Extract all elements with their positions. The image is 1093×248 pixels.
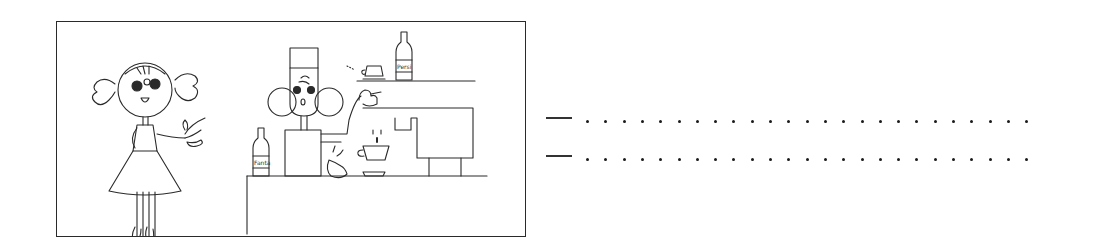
dot: [952, 158, 955, 161]
dot: [787, 158, 790, 161]
dot: [879, 120, 882, 123]
dot: [824, 158, 827, 161]
answer-line-2-dots[interactable]: [586, 158, 1036, 164]
girl-figure: [92, 63, 205, 236]
dot: [952, 120, 955, 123]
dot: [678, 158, 681, 161]
dot: [915, 120, 918, 123]
dot: [732, 158, 735, 161]
dot: [714, 120, 717, 123]
dot: [641, 158, 644, 161]
dot: [732, 120, 735, 123]
dot: [1025, 158, 1028, 161]
dot: [1007, 158, 1010, 161]
cafe-scene-illustration: Persi: [57, 22, 525, 236]
dot: [751, 120, 754, 123]
dot: [970, 120, 973, 123]
dot: [678, 120, 681, 123]
dot: [879, 158, 882, 161]
dot: [934, 158, 937, 161]
dot: [769, 158, 772, 161]
dot: [623, 158, 626, 161]
dot: [897, 120, 900, 123]
dot: [696, 158, 699, 161]
dot: [806, 158, 809, 161]
counter: Fanta: [247, 128, 487, 234]
answer-line-1-dash: [546, 117, 572, 119]
dot: [842, 158, 845, 161]
dot: [1025, 120, 1028, 123]
dot: [897, 158, 900, 161]
dot: [623, 120, 626, 123]
answer-line-1[interactable]: [546, 117, 1046, 133]
dot: [751, 158, 754, 161]
shelf-bottle-label: Persi: [397, 63, 412, 70]
dot: [861, 158, 864, 161]
answer-line-2[interactable]: [546, 155, 1046, 171]
dot: [934, 120, 937, 123]
dot: [915, 158, 918, 161]
answer-line-1-dots[interactable]: [586, 120, 1036, 126]
espresso-machine: [358, 108, 473, 176]
dot: [659, 158, 662, 161]
barista-figure: [268, 48, 381, 178]
dot: [586, 158, 589, 161]
dot: [842, 120, 845, 123]
dot: [970, 158, 973, 161]
counter-bottle-label: Fanta: [254, 159, 271, 166]
answer-line-2-dash: [546, 155, 572, 157]
dot: [604, 120, 607, 123]
dot: [824, 120, 827, 123]
shelf: Persi: [347, 32, 475, 81]
dot: [787, 120, 790, 123]
dot: [861, 120, 864, 123]
illustration-frame: Persi: [56, 21, 526, 237]
dot: [641, 120, 644, 123]
dot: [806, 120, 809, 123]
dot: [1007, 120, 1010, 123]
dot: [769, 120, 772, 123]
dot: [604, 158, 607, 161]
dot: [696, 120, 699, 123]
dot: [989, 120, 992, 123]
dot: [714, 158, 717, 161]
dot: [989, 158, 992, 161]
dot: [659, 120, 662, 123]
dot: [586, 120, 589, 123]
